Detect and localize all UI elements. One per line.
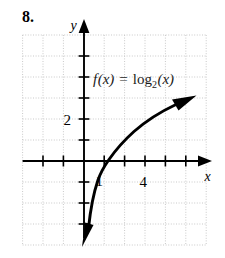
x-axis-arrowhead: [198, 156, 212, 167]
figure-page: 8.: [0, 0, 225, 258]
function-label-arg: (x): [157, 71, 174, 88]
svg-text:f(x)=log2(x): f(x)=log2(x): [93, 71, 174, 90]
y-axis: [79, 19, 90, 238]
function-label: f(x)=log2(x): [93, 71, 174, 90]
function-label-lhs-arg: (x): [98, 71, 115, 88]
x-tick-label-4: 4: [140, 174, 148, 190]
y-axis-arrowhead: [79, 19, 90, 33]
x-axis-label: x: [204, 169, 212, 184]
grid: [23, 35, 207, 245]
x-tick-label-1: 1: [96, 173, 104, 189]
y-tick-label-2: 2: [64, 112, 72, 128]
function-label-equals: =: [119, 71, 127, 87]
function-label-base: 2: [152, 79, 157, 90]
log-function-graph: 1 4 2 y x f(x)=log2(x): [0, 0, 225, 258]
x-axis: [23, 156, 212, 167]
y-axis-label: y: [69, 18, 78, 33]
curve-arrowhead-upper: [172, 96, 197, 111]
function-label-fn-name: log: [133, 71, 153, 87]
